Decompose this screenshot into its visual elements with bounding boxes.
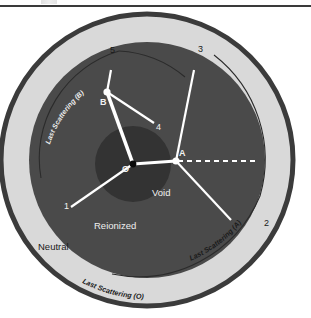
ray-4-label: 4 [156,122,161,132]
point-O-label: O [122,164,129,174]
zone-label-neutral: Neutral [38,241,69,252]
point-A-marker [172,157,179,164]
ray-5-label: 5 [110,45,115,55]
point-B-label: B [100,97,107,107]
ray-2-label: 2 [264,218,269,228]
figure-root: O A B 1 2 3 4 5 Neutral Reionized Void L… [0,0,311,318]
top-horizontal-rule [0,5,311,7]
zone-label-void: Void [152,187,171,198]
zone-label-reionized: Reionized [94,220,136,231]
reionization-diagram: O A B 1 2 3 4 5 Neutral Reionized Void L… [0,8,311,318]
ray-3-label: 3 [198,44,203,54]
point-O-marker [130,161,137,168]
ray-1-label: 1 [64,201,69,211]
point-B-marker [103,88,110,95]
top-artifact-smudge [41,0,57,4]
point-A-label: A [179,148,186,158]
